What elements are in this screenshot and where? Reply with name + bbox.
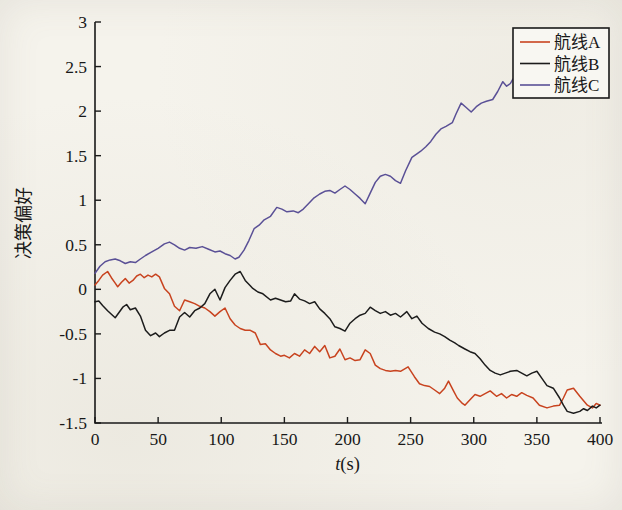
y-tick-label: 1 <box>78 190 87 210</box>
y-tick-label: -0.5 <box>59 324 87 344</box>
y-tick-label: 2.5 <box>65 57 87 77</box>
x-tick-label: 300 <box>461 429 488 449</box>
y-tick-label: 3 <box>78 12 87 32</box>
y-tick-label: -1 <box>72 368 87 388</box>
x-tick-label: 200 <box>334 429 361 449</box>
x-tick-label: 400 <box>587 429 614 449</box>
x-tick-label: 250 <box>398 429 425 449</box>
chart-canvas: -1.5-1-0.500.511.522.5305010015020025030… <box>0 0 622 510</box>
x-axis-label: t(s) <box>335 454 360 475</box>
y-tick-label: 0.5 <box>65 235 87 255</box>
x-tick-label: 150 <box>271 429 298 449</box>
legend-label: 航线B <box>554 55 599 74</box>
x-tick-label: 0 <box>91 429 100 449</box>
y-tick-label: -1.5 <box>59 413 87 433</box>
legend-label: 航线A <box>554 33 601 52</box>
figure-container: -1.5-1-0.500.511.522.5305010015020025030… <box>0 0 622 510</box>
y-axis-label: 决策偏好 <box>14 187 34 259</box>
series-line-航线B <box>95 272 600 414</box>
series-line-航线A <box>95 272 600 408</box>
series-line-航线C <box>95 79 513 273</box>
x-tick-label: 350 <box>524 429 551 449</box>
legend-label: 航线C <box>554 76 599 95</box>
y-tick-label: 0 <box>78 279 87 299</box>
x-tick-label: 50 <box>149 429 167 449</box>
x-tick-label: 100 <box>208 429 235 449</box>
y-tick-label: 1.5 <box>65 146 87 166</box>
y-tick-label: 2 <box>78 101 87 121</box>
